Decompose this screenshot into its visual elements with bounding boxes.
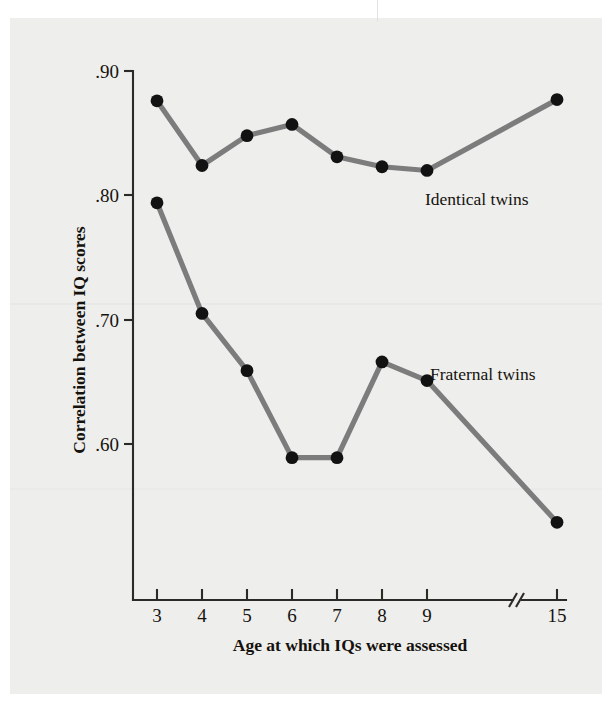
x-tick-label-4: 7 — [332, 605, 342, 626]
data-point-s1-x8 — [376, 356, 389, 369]
twin-iq-correlation-line-chart: .90 .80 .70 .60 3 4 5 6 7 8 9 15 Age at … — [0, 0, 612, 703]
x-tick-label-7: 15 — [548, 605, 567, 626]
series-layer — [151, 93, 564, 529]
figure-container: .90 .80 .70 .60 3 4 5 6 7 8 9 15 Age at … — [0, 0, 612, 703]
y-tick-label-0: .90 — [95, 61, 119, 82]
x-tick-label-6: 9 — [422, 605, 432, 626]
x-axis-title: Age at which IQs were assessed — [233, 635, 468, 655]
x-axis-ticks — [157, 589, 557, 600]
x-tick-label-2: 5 — [242, 605, 252, 626]
x-tick-label-5: 8 — [377, 605, 387, 626]
y-axis-title: Correlation between IQ scores — [69, 226, 89, 453]
data-point-s1-x5 — [241, 364, 254, 377]
series-line-identical-twins — [157, 100, 557, 171]
y-tick-label-1: .80 — [95, 185, 119, 206]
data-point-s0-x3 — [151, 94, 164, 107]
y-tick-label-2: .70 — [95, 310, 119, 331]
x-tick-label-0: 3 — [152, 605, 162, 626]
data-point-s1-x7 — [331, 451, 344, 464]
y-axis-ticks — [124, 71, 133, 444]
series-line-fraternal-twins — [157, 203, 557, 523]
data-point-s0-x8 — [376, 160, 389, 173]
x-tick-label-3: 6 — [287, 605, 297, 626]
data-point-s0-x4 — [196, 159, 209, 172]
x-tick-label-1: 4 — [197, 605, 207, 626]
data-point-s0-x7 — [331, 150, 344, 163]
data-point-s0-x5 — [241, 129, 254, 142]
data-point-s1-x3 — [151, 196, 164, 209]
data-point-s0-x9 — [421, 164, 434, 177]
series-annotation-identical-twins: Identical twins — [425, 189, 529, 209]
data-point-s1-x4 — [196, 307, 209, 320]
data-point-s1-x15 — [551, 516, 564, 529]
series-annotation-fraternal-twins: Fraternal twins — [430, 364, 536, 384]
data-point-s0-x6 — [286, 118, 299, 131]
data-point-s0-x15 — [551, 93, 564, 106]
y-tick-label-3: .60 — [95, 434, 119, 455]
data-point-s1-x6 — [286, 451, 299, 464]
